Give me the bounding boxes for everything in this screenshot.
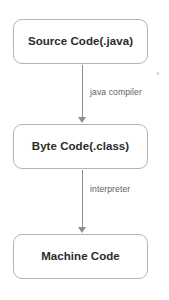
node-machine-code-label: Machine Code — [41, 251, 120, 263]
edge-label-interpreter: interpreter — [90, 185, 130, 194]
arrow-head — [78, 227, 86, 233]
arrow-down-icon-compile — [77, 65, 89, 123]
node-byte-code-label: Byte Code(.class) — [32, 141, 129, 153]
scan-artifact-speck — [157, 72, 159, 75]
node-byte-code[interactable]: Byte Code(.class) — [13, 124, 148, 169]
arrow-head — [78, 117, 86, 123]
arrow-shaft — [82, 65, 83, 118]
arrow-down-icon-interpret — [77, 170, 89, 233]
node-source-code-label: Source Code(.java) — [28, 36, 133, 48]
node-machine-code[interactable]: Machine Code — [13, 234, 148, 279]
node-source-code[interactable]: Source Code(.java) — [13, 19, 148, 64]
edge-label-java-compiler: java compiler — [90, 88, 142, 97]
arrow-shaft — [82, 170, 83, 228]
flowchart-diagram: Source Code(.java) java compiler Byte Co… — [0, 0, 169, 300]
